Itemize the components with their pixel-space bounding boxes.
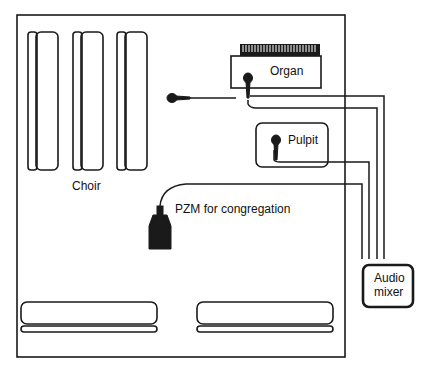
organ-keyboard — [240, 44, 320, 56]
choir-stalls — [28, 32, 147, 170]
pulpit-label: Pulpit — [288, 133, 318, 147]
audio-mixer-label-line2: mixer — [374, 285, 403, 299]
organ-label: Organ — [270, 64, 303, 78]
audio-mixer-label-line1: Audio — [374, 271, 405, 285]
cables — [160, 96, 384, 259]
pzm-label: PZM for congregation — [175, 202, 290, 216]
pulpit-microphone-icon — [272, 135, 281, 160]
choir-label: Choir — [72, 179, 101, 193]
church-wiring-diagram — [0, 0, 433, 371]
pews — [21, 302, 333, 332]
organ-microphone-icon — [244, 73, 253, 98]
pzm-microphone-icon — [149, 206, 171, 249]
choir-microphone-icon — [167, 94, 190, 103]
